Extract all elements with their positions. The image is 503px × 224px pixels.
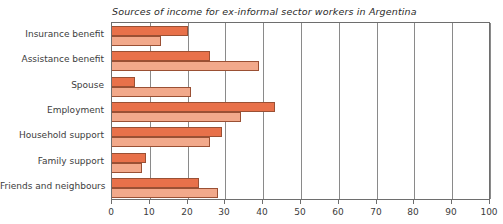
x-tick-mark <box>451 200 452 204</box>
x-tick-mark <box>338 200 339 204</box>
x-tick-mark <box>489 200 490 204</box>
bar <box>112 51 210 61</box>
bar-group <box>112 26 489 46</box>
x-tick-label: 0 <box>96 206 126 218</box>
bar-group <box>112 102 489 122</box>
x-tick-label: 30 <box>209 206 239 218</box>
bar <box>112 61 259 71</box>
x-tick-label: 40 <box>247 206 277 218</box>
category-label: Employment <box>0 105 104 116</box>
x-tick-label: 70 <box>361 206 391 218</box>
x-tick-mark <box>413 200 414 204</box>
bar <box>112 163 142 173</box>
bar <box>112 102 275 112</box>
plot-area <box>111 22 490 200</box>
x-tick-mark <box>187 200 188 204</box>
x-tick-label: 20 <box>172 206 202 218</box>
bar <box>112 153 146 163</box>
x-tick-label: 100 <box>474 206 503 218</box>
category-label: Household support <box>0 130 104 141</box>
bar <box>112 36 161 46</box>
bar-chart: Sources of income for ex-informal sector… <box>0 0 503 224</box>
x-tick-label: 50 <box>285 206 315 218</box>
category-label: Friends and neighbours <box>0 181 104 192</box>
bar-group <box>112 77 489 97</box>
bar-group <box>112 153 489 173</box>
category-label: Assistance benefit <box>0 54 104 65</box>
x-tick-mark <box>224 200 225 204</box>
x-tick-mark <box>111 200 112 204</box>
category-label: Family support <box>0 156 104 167</box>
x-tick-label: 60 <box>323 206 353 218</box>
bar <box>112 178 199 188</box>
bar <box>112 137 210 147</box>
category-label: Insurance benefit <box>0 29 104 40</box>
x-tick-mark <box>149 200 150 204</box>
bar <box>112 26 188 36</box>
bar <box>112 77 135 87</box>
bar <box>112 127 222 137</box>
x-tick-mark <box>376 200 377 204</box>
category-label: Spouse <box>0 80 104 91</box>
bar-group <box>112 51 489 71</box>
x-tick-mark <box>262 200 263 204</box>
bar-group <box>112 127 489 147</box>
bar <box>112 188 218 198</box>
bars-layer <box>112 23 489 199</box>
x-axis: 0102030405060708090100 <box>111 200 491 224</box>
category-axis-labels: Insurance benefitAssistance benefitSpous… <box>0 22 108 200</box>
gridline-100 <box>490 23 491 199</box>
bar <box>112 87 191 97</box>
x-tick-mark <box>300 200 301 204</box>
x-tick-label: 10 <box>134 206 164 218</box>
x-tick-label: 80 <box>398 206 428 218</box>
x-tick-label: 90 <box>436 206 466 218</box>
bar <box>112 112 241 122</box>
bar-group <box>112 178 489 198</box>
chart-title: Sources of income for ex-informal sector… <box>112 4 492 20</box>
